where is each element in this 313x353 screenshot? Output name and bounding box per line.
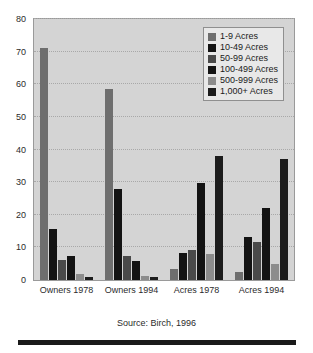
bar: [188, 250, 196, 280]
legend-label: 1-9 Acres: [220, 32, 258, 41]
legend-item: 50-99 Acres: [208, 53, 278, 64]
chart-figure: 80706050403020100 Owners 1978Owners 1994…: [0, 0, 313, 353]
bar: [123, 256, 131, 280]
bottom-divider-rule: [18, 340, 296, 345]
legend-label: 10-49 Acres: [220, 43, 268, 52]
bar-group: [105, 19, 158, 280]
legend-item: 10-49 Acres: [208, 42, 278, 53]
legend-swatch-icon: [208, 66, 216, 74]
bar: [280, 159, 288, 280]
bar: [67, 256, 75, 280]
bar: [253, 242, 261, 280]
legend-swatch-icon: [208, 33, 216, 41]
source-caption: Source: Birch, 1996: [0, 318, 313, 329]
y-tick-label: 40: [16, 145, 26, 154]
legend-label: 500-999 Acres: [220, 76, 278, 85]
bar: [58, 260, 66, 280]
bar: [179, 253, 187, 280]
bar: [197, 183, 205, 280]
y-tick-label: 60: [16, 80, 26, 89]
y-tick-label: 20: [16, 210, 26, 219]
bar: [271, 264, 279, 280]
y-axis: 80706050403020100: [0, 18, 30, 281]
legend-item: 100-499 Acres: [208, 64, 278, 75]
bar: [150, 277, 158, 280]
bar: [40, 48, 48, 280]
bar: [244, 237, 252, 280]
bar: [206, 254, 214, 280]
legend-label: 1,000+ Acres: [220, 87, 273, 96]
bar: [235, 272, 243, 280]
y-tick-label: 30: [16, 178, 26, 187]
y-tick-label: 10: [16, 243, 26, 252]
bar: [105, 89, 113, 280]
x-axis: Owners 1978Owners 1994Acres 1978Acres 19…: [33, 285, 295, 299]
bar: [262, 208, 270, 280]
legend-item: 1-9 Acres: [208, 31, 278, 42]
bar: [114, 189, 122, 280]
legend-swatch-icon: [208, 88, 216, 96]
bar: [76, 274, 84, 280]
legend-label: 100-499 Acres: [220, 65, 278, 74]
legend-item: 1,000+ Acres: [208, 86, 278, 97]
legend-swatch-icon: [208, 44, 216, 52]
legend-label: 50-99 Acres: [220, 54, 268, 63]
y-tick-label: 70: [16, 47, 26, 56]
y-tick-label: 0: [21, 276, 26, 285]
y-tick-label: 50: [16, 112, 26, 121]
bar: [85, 277, 93, 280]
legend-item: 500-999 Acres: [208, 75, 278, 86]
x-tick-label: Acres 1994: [239, 285, 285, 296]
y-tick-label: 80: [16, 15, 26, 24]
bar: [141, 276, 149, 280]
chart-legend: 1-9 Acres10-49 Acres50-99 Acres100-499 A…: [203, 27, 284, 101]
x-tick-label: Owners 1994: [105, 285, 159, 296]
bar: [170, 269, 178, 280]
legend-swatch-icon: [208, 77, 216, 85]
bar: [49, 229, 57, 280]
bar-group: [40, 19, 93, 280]
x-tick-label: Owners 1978: [40, 285, 94, 296]
bar: [132, 261, 140, 280]
bar: [215, 156, 223, 280]
x-tick-label: Acres 1978: [174, 285, 220, 296]
legend-swatch-icon: [208, 55, 216, 63]
